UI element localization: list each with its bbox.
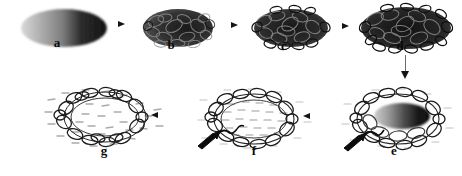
arrow-c-to-d [342,23,349,29]
figure-panel-sequence: a [0,0,462,176]
panel-label-g: g [94,143,114,159]
panel-label-b: b [161,37,181,53]
arrow-a-to-b [118,21,125,27]
panel-e-dark-core [374,103,430,129]
panel-label-d: d [390,38,410,54]
arrow-f-to-g [151,112,158,118]
arrow-d-to-e [401,71,409,79]
panel-label-f: f [244,143,264,159]
arrow-e-to-f [303,113,310,119]
arrow-b-to-c [231,22,238,28]
panel-label-c: c [274,38,294,54]
panel-label-a: a [47,35,67,51]
panel-label-e: e [384,143,404,159]
panel-f-interior-dashes [222,102,287,135]
panel-f-ring-loops [205,88,298,150]
